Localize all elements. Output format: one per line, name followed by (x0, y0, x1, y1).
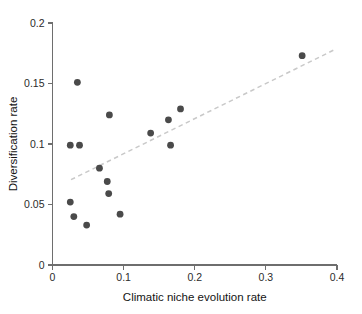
data-points-layer (67, 52, 306, 228)
data-point (67, 142, 74, 149)
x-axis-title: Climatic niche evolution rate (123, 291, 267, 303)
data-point (167, 142, 174, 149)
y-tick-label: 0.15 (24, 77, 45, 89)
data-point (76, 142, 83, 149)
axis-label-layer: Climatic niche evolution rateDiversifica… (7, 97, 267, 303)
data-point (117, 211, 124, 218)
data-point (105, 190, 112, 197)
data-point (299, 52, 306, 59)
scatter-plot-figure: 00.050.10.150.200.10.20.30.4 Climatic ni… (0, 0, 362, 314)
data-point (70, 213, 77, 220)
y-tick-label: 0.05 (24, 198, 45, 210)
axis-layer: 00.050.10.150.200.10.20.30.4 (24, 17, 344, 283)
y-tick-label: 0 (39, 259, 45, 271)
data-point (83, 222, 90, 229)
data-point (147, 130, 154, 137)
data-point (165, 116, 172, 123)
x-tick-label: 0 (50, 271, 56, 283)
x-tick-label: 0.1 (116, 271, 131, 283)
y-axis-title: Diversification rate (7, 97, 19, 192)
data-point (104, 178, 111, 185)
data-point (67, 199, 74, 206)
x-tick-label: 0.2 (187, 271, 202, 283)
x-tick-label: 0.3 (259, 271, 274, 283)
x-tick-label: 0.4 (330, 271, 345, 283)
data-point (106, 112, 113, 119)
data-point (177, 106, 184, 113)
data-point (74, 79, 81, 86)
data-point (96, 165, 103, 172)
y-tick-label: 0.1 (30, 138, 45, 150)
plot-canvas: 00.050.10.150.200.10.20.30.4 Climatic ni… (0, 0, 362, 314)
y-tick-label: 0.2 (30, 17, 45, 29)
